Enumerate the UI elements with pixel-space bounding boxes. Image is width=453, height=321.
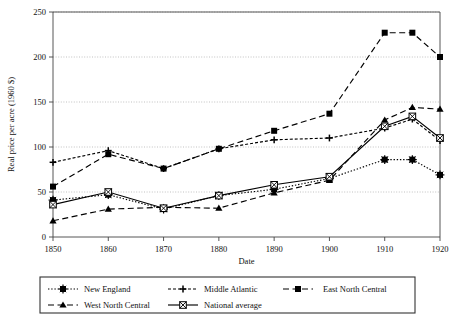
series-line — [53, 160, 440, 210]
legend-item-label: East North Central — [323, 284, 387, 294]
x-axis-title: Date — [238, 256, 254, 266]
legend-item-label: New England — [84, 284, 131, 294]
series-east-north-central — [50, 30, 443, 190]
y-tick-label: 200 — [33, 52, 46, 62]
marker-square — [437, 54, 443, 60]
x-tick-label: 1870 — [155, 244, 172, 254]
y-tick-label: 100 — [33, 142, 46, 152]
marker-square — [382, 30, 388, 36]
x-tick-label: 1920 — [432, 244, 449, 254]
x-tick-label: 1850 — [45, 244, 62, 254]
x-tick-label: 1890 — [266, 244, 283, 254]
y-tick-label: 0 — [42, 232, 46, 242]
legend-item-label: National average — [204, 300, 262, 310]
marker-triangle — [381, 116, 388, 122]
series-group — [49, 30, 445, 224]
x-tick-label: 1860 — [100, 244, 117, 254]
line-chart: 0501001502002501850186018701880189019001… — [0, 0, 453, 321]
marker-square — [50, 184, 56, 190]
series-new-england — [49, 155, 445, 213]
marker-square — [216, 146, 222, 152]
x-tick-label: 1910 — [376, 244, 393, 254]
legend-item-national-average[interactable]: National average — [168, 300, 262, 310]
chart-container: 0501001502002501850186018701880189019001… — [0, 0, 453, 321]
legend-item-label: West North Central — [84, 300, 151, 310]
y-tick-label: 150 — [33, 97, 46, 107]
x-axis: 18501860187018801890190019101920 — [45, 237, 449, 254]
marker-square — [295, 286, 301, 292]
marker-square — [409, 30, 415, 36]
x-tick-label: 1900 — [321, 244, 338, 254]
series-line — [53, 33, 440, 187]
marker-square — [105, 151, 111, 157]
y-tick-label: 50 — [38, 187, 47, 197]
marker-square — [161, 166, 167, 172]
marker-triangle — [409, 104, 416, 110]
y-axis-title: Real price per acre (1960 $) — [6, 77, 16, 172]
legend-item-label: Middle Atlantic — [204, 284, 258, 294]
y-tick-label: 250 — [33, 7, 46, 17]
x-tick-label: 1880 — [210, 244, 227, 254]
legend: New EnglandMiddle AtlanticEast North Cen… — [40, 277, 415, 313]
marker-square — [326, 111, 332, 117]
marker-square — [271, 128, 277, 134]
gridlines — [53, 12, 440, 192]
